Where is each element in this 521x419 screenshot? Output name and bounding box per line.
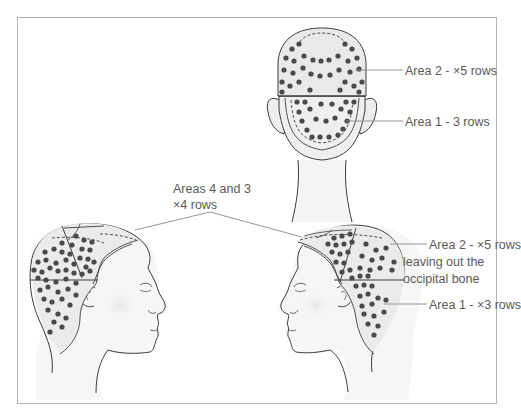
label-side-area2-line2: leaving out the — [403, 254, 484, 270]
back-view-head — [267, 28, 403, 222]
label-side-area1: Area 1 - ×3 rows — [429, 297, 521, 313]
label-side-area2-line3: occipital bone — [403, 271, 479, 287]
label-areas-4-3-line1: Areas 4 and 3 — [173, 181, 251, 197]
leader-areas-4-3 — [135, 212, 302, 237]
label-areas-4-3-line2: ×4 rows — [173, 197, 217, 213]
label-side-area2-line1: Area 2 - ×5 rows — [429, 237, 521, 253]
right-facing-profile-head — [29, 223, 168, 400]
label-back-area2: Area 2 - ×5 rows — [405, 63, 497, 79]
left-facing-profile-head — [278, 225, 427, 400]
label-back-area1: Area 1 - 3 rows — [405, 114, 490, 130]
